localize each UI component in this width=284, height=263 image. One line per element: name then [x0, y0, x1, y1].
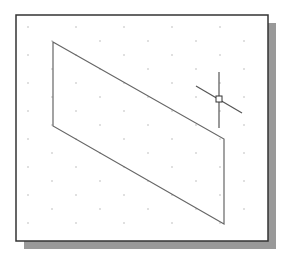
- grid-dot: [123, 54, 124, 55]
- grid-dot: [99, 180, 100, 181]
- grid-dot: [75, 26, 76, 27]
- grid-dot: [219, 54, 220, 55]
- grid-dot: [147, 124, 148, 125]
- pickbox-icon: [216, 96, 222, 102]
- grid-dot: [147, 208, 148, 209]
- grid-dot: [27, 138, 28, 139]
- grid-dot: [219, 138, 220, 139]
- grid-dot: [51, 208, 52, 209]
- grid-dot: [171, 110, 172, 111]
- grid-dot: [195, 152, 196, 153]
- viewport-frame: [16, 15, 268, 241]
- grid-dot: [51, 152, 52, 153]
- grid-dot: [147, 68, 148, 69]
- grid-dot: [27, 110, 28, 111]
- grid-dot: [75, 166, 76, 167]
- grid-dot: [243, 152, 244, 153]
- grid-dot: [75, 82, 76, 83]
- grid-dot: [123, 110, 124, 111]
- grid-dot: [195, 180, 196, 181]
- grid-dot: [147, 152, 148, 153]
- grid-dot: [171, 166, 172, 167]
- grid-dot: [171, 138, 172, 139]
- grid-dot: [27, 82, 28, 83]
- grid-dot: [243, 68, 244, 69]
- grid-dot: [123, 222, 124, 223]
- grid-dot: [75, 194, 76, 195]
- grid-dot: [243, 124, 244, 125]
- grid-dot: [171, 82, 172, 83]
- grid-dot: [171, 26, 172, 27]
- grid-dot: [195, 68, 196, 69]
- grid-dot: [123, 26, 124, 27]
- grid-dot: [27, 194, 28, 195]
- grid-dot: [147, 40, 148, 41]
- grid-dot: [99, 96, 100, 97]
- grid-dot: [243, 40, 244, 41]
- grid-dot: [195, 124, 196, 125]
- grid-dot: [99, 124, 100, 125]
- grid-dot: [243, 180, 244, 181]
- grid-dot: [219, 194, 220, 195]
- grid-dot: [75, 110, 76, 111]
- grid-dot: [99, 208, 100, 209]
- grid-dot: [171, 222, 172, 223]
- grid-dot: [99, 40, 100, 41]
- grid-dot: [195, 96, 196, 97]
- grid-dot: [243, 208, 244, 209]
- grid-dot: [27, 26, 28, 27]
- grid-dot: [27, 222, 28, 223]
- grid-dot: [75, 222, 76, 223]
- drawing-viewport[interactable]: [0, 0, 284, 263]
- grid-dot: [51, 180, 52, 181]
- grid-dot: [243, 96, 244, 97]
- grid-dot: [219, 166, 220, 167]
- grid-dot: [27, 166, 28, 167]
- grid-dot: [27, 54, 28, 55]
- grid-dot: [195, 40, 196, 41]
- grid-dot: [171, 54, 172, 55]
- grid-dot: [219, 26, 220, 27]
- grid-dot: [123, 194, 124, 195]
- grid-dot: [123, 138, 124, 139]
